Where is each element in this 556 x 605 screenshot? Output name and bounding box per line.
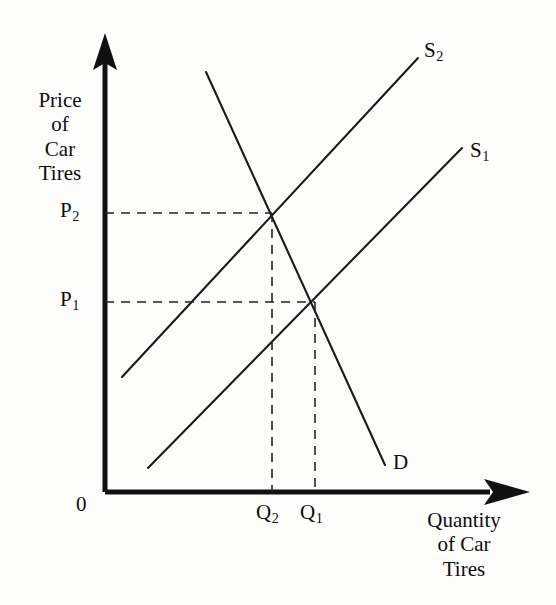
supply-curve-s2 [122, 58, 418, 377]
quantity-tick-q2: Q2 [256, 500, 279, 524]
y-axis-label: PriceofCarTires [18, 88, 102, 185]
price-tick-p2-subscript: 2 [72, 208, 80, 224]
curve-label-s1: S1 [470, 138, 489, 162]
demand-curve-d [206, 72, 385, 465]
curve-label-s2: S2 [424, 38, 443, 62]
curve-label-d: D [393, 450, 408, 474]
curve-label-s2-subscript: 2 [436, 48, 444, 64]
supply-curve-s1 [148, 148, 462, 468]
x-axis-label: Quantityof CarTires [398, 508, 530, 581]
price-tick-p2-text: P [60, 198, 72, 222]
quantity-tick-q1-subscript: 1 [315, 510, 323, 526]
origin-label: 0 [76, 492, 87, 516]
curve-label-s1-text: S [470, 138, 482, 162]
price-tick-p1: P1 [60, 287, 79, 311]
quantity-tick-q2-text: Q [256, 500, 271, 524]
quantity-tick-q1: Q1 [300, 500, 323, 524]
curve-label-s2-text: S [424, 38, 436, 62]
curve-label-s1-subscript: 1 [482, 148, 490, 164]
x-axis-arrowhead [484, 479, 530, 505]
quantity-tick-q1-text: Q [300, 500, 315, 524]
supply-demand-figure: PriceofCarTires Quantityof CarTires 0 P2… [0, 0, 556, 605]
price-tick-p1-subscript: 1 [72, 297, 80, 313]
price-tick-p1-text: P [60, 287, 72, 311]
quantity-tick-q2-subscript: 2 [271, 510, 279, 526]
price-tick-p2: P2 [60, 198, 79, 222]
